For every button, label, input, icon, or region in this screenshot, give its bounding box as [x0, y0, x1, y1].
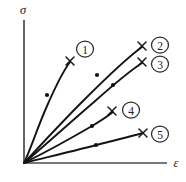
curve-group-1 [24, 57, 74, 163]
x-axis-label: ε [174, 156, 179, 170]
curve-5-mid-dot [94, 143, 98, 147]
curve-2-mid-dot [95, 73, 99, 77]
stress-strain-plot: σ ε [0, 0, 186, 182]
stress-strain-figure: σ ε [0, 0, 186, 182]
callout-5: 5 [152, 126, 169, 142]
curve-4-mid-dot [90, 124, 94, 128]
callout-4-label: 4 [128, 105, 134, 117]
callout-2: 2 [152, 37, 169, 53]
callout-4: 4 [123, 102, 140, 118]
callout-1-label: 1 [82, 44, 88, 56]
curve-3-fracture-marker [138, 58, 146, 66]
curve-3-mid-dot [111, 83, 115, 87]
callout-3: 3 [152, 56, 169, 72]
curve-1-fracture-marker [66, 57, 74, 65]
callout-1: 1 [77, 41, 94, 57]
callout-2-label: 2 [157, 40, 163, 52]
curve-1-mid-dot [45, 93, 49, 97]
y-axis-label: σ [20, 3, 27, 17]
stress-strain-curve-4 [24, 112, 113, 163]
curve-2-fracture-marker [138, 42, 146, 50]
callout-3-label: 3 [157, 59, 163, 71]
callout-5-label: 5 [157, 129, 163, 141]
stress-strain-curve-1 [24, 62, 70, 163]
